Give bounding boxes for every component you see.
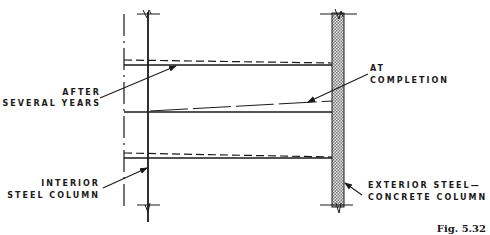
middle-beam-at-completion	[150, 101, 332, 111]
interior-steel-column	[137, 10, 160, 222]
figure-caption: Fig. 5.32	[437, 223, 486, 234]
label-exterior-line2: CONCRETE COLUMN	[368, 193, 487, 202]
exterior-steel-concrete-column	[320, 9, 357, 213]
bottom-beam-after-years	[124, 153, 332, 157]
label-exterior-line1: EXTERIOR STEEL—	[368, 181, 481, 190]
label-interior-line1: INTERIOR	[41, 179, 100, 188]
label-after-line2: SEVERAL YEARS	[3, 99, 102, 108]
label-completion-line1: AT	[370, 64, 385, 73]
top-beam	[124, 60, 332, 65]
middle-beam	[124, 101, 332, 112]
label-interior-line2: STEEL COLUMN	[7, 191, 100, 200]
leader-interior-column	[103, 168, 147, 188]
leader-exterior-column	[345, 183, 362, 195]
beam-deflection-diagram: AFTER SEVERAL YEARS AT COMPLETION INTERI…	[0, 0, 490, 235]
top-beam-after-years	[124, 60, 332, 63]
label-after-line1: AFTER	[62, 88, 101, 97]
leader-after-several-years	[100, 66, 176, 98]
bottom-beam	[124, 153, 332, 158]
label-completion-line2: COMPLETION	[370, 76, 449, 85]
